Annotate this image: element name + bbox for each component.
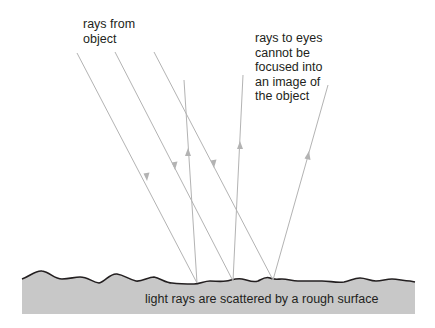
arrow-up-icon	[305, 151, 311, 160]
arrow-down-icon	[172, 162, 178, 171]
reflected-ray-1	[184, 80, 197, 283]
incident-rays	[77, 52, 273, 283]
reflected-ray-2	[233, 75, 243, 281]
surface-caption: light rays are scattered by a rough surf…	[145, 292, 378, 307]
diffuse-reflection-diagram	[0, 0, 435, 328]
incident-ray-1	[77, 53, 197, 283]
arrow-up-icon	[237, 141, 243, 149]
outgoing-rays-label: rays to eyes cannot be focused into an i…	[255, 31, 322, 104]
incoming-rays-label: rays from object	[83, 17, 135, 46]
arrow-up-icon	[185, 148, 191, 156]
reflected-rays	[184, 75, 328, 283]
arrow-down-icon	[144, 173, 150, 182]
arrow-down-icon	[211, 160, 217, 169]
reflected-ray-3	[273, 85, 328, 280]
